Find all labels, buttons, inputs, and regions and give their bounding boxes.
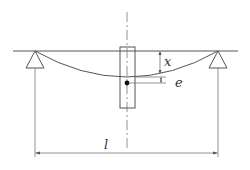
center-of-mass-dot <box>125 81 130 86</box>
span-label: l <box>104 137 108 152</box>
left-pin-support <box>26 51 44 68</box>
eccentricity-label: e <box>175 75 183 90</box>
span-arrowhead-right <box>213 152 218 155</box>
deflected-beam <box>35 51 218 77</box>
deflection-label: x <box>164 54 172 69</box>
beam-diagram: x e l <box>0 0 250 170</box>
deflection-arrowhead-top <box>159 51 162 55</box>
span-arrowhead-left <box>35 152 40 155</box>
right-pin-support <box>209 51 227 68</box>
